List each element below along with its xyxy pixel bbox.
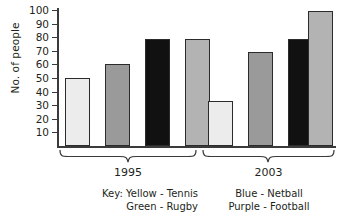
legend-item-netball: Blue - Netball [203, 187, 335, 200]
legend-right: Blue - Netball Purple - Football [203, 187, 335, 213]
y-tick-mark [52, 105, 57, 106]
y-tick-label: 10 [36, 126, 49, 138]
group-brace-1995 [58, 149, 198, 163]
group-label-2003: 2003 [201, 166, 336, 179]
legend-item-football: Purple - Football [203, 200, 335, 213]
y-tick-label: 20 [36, 113, 49, 125]
y-tick-mark [52, 119, 57, 120]
plot-area: 100908070605040302010 [57, 8, 336, 148]
bar-1995-football [185, 39, 210, 146]
y-tick-label: 30 [36, 99, 49, 111]
bar-1995-rugby [105, 64, 130, 146]
y-tick-mark [52, 78, 57, 79]
bar-2003-tennis [208, 101, 233, 146]
group-label-1995: 1995 [58, 166, 198, 179]
y-tick-mark [52, 92, 57, 93]
y-tick-label: 70 [36, 45, 49, 57]
bar-chart: No. of people 100908070605040302010 1995… [0, 0, 341, 222]
bar-2003-rugby [248, 52, 273, 146]
y-tick-mark [52, 37, 57, 38]
y-tick-label: 50 [36, 72, 49, 84]
y-tick-label: 40 [36, 86, 49, 98]
bar-2003-football [308, 11, 333, 146]
y-tick-label: 90 [36, 18, 49, 30]
y-tick-mark [52, 64, 57, 65]
y-tick-mark [52, 10, 57, 11]
y-axis-title: No. of people [9, 10, 21, 106]
group-brace-2003 [201, 149, 336, 163]
y-tick-mark [52, 51, 57, 52]
legend-item-rugby: Green - Rugby [62, 200, 198, 213]
bar-1995-netball [145, 39, 170, 146]
legend-item-tennis: Key: Yellow - Tennis [62, 187, 198, 200]
y-tick-label: 80 [36, 31, 49, 43]
legend-left: Key: Yellow - Tennis Green - Rugby [62, 187, 198, 213]
x-axis-baseline [57, 146, 336, 148]
bar-1995-tennis [65, 78, 90, 146]
y-axis-line [57, 8, 59, 148]
y-tick-mark [52, 24, 57, 25]
y-tick-label: 100 [29, 4, 49, 16]
y-tick-label: 60 [36, 58, 49, 70]
y-tick-mark [52, 132, 57, 133]
